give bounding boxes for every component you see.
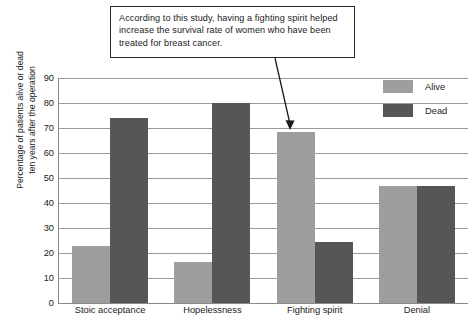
legend-item-dead: Dead <box>383 104 447 117</box>
y-axis-tick-label: 90 <box>44 73 54 83</box>
x-axis-category-label: Stoic acceptance <box>75 305 146 315</box>
bar-dead-2 <box>315 242 353 303</box>
bar-alive-3 <box>379 186 417 304</box>
x-axis-category-label: Hopelessness <box>183 305 241 315</box>
y-axis-tick-label: 80 <box>44 98 54 108</box>
y-axis-title: Percentage of patients alive or dead ten… <box>15 13 45 228</box>
bar-dead-1 <box>212 103 250 303</box>
legend-swatch-dead <box>383 104 413 117</box>
bar-dead-0 <box>110 118 148 303</box>
chart-legend: Alive Dead <box>383 80 447 128</box>
y-axis-tick-label: 20 <box>44 248 54 258</box>
y-axis-tick-label: 60 <box>44 148 54 158</box>
y-axis-tick-label: 0 <box>49 298 54 308</box>
callout-arrow-icon <box>250 52 310 134</box>
legend-label-alive: Alive <box>425 82 445 92</box>
y-axis-tick-label: 30 <box>44 223 54 233</box>
bar-dead-3 <box>417 186 455 304</box>
y-axis-tick-label: 70 <box>44 123 54 133</box>
y-axis-tick-label: 10 <box>44 273 54 283</box>
bar-alive-0 <box>72 246 110 304</box>
callout-annotation: According to this study, having a fighti… <box>110 6 355 58</box>
legend-label-dead: Dead <box>425 106 447 116</box>
bar-alive-1 <box>174 262 212 303</box>
y-axis-tick-label: 40 <box>44 198 54 208</box>
y-axis-tick-label: 50 <box>44 173 54 183</box>
x-axis-category-label: Fighting spirit <box>287 305 342 315</box>
legend-item-alive: Alive <box>383 80 447 93</box>
legend-swatch-alive <box>383 80 413 93</box>
callout-text: According to this study, having a fighti… <box>119 12 347 49</box>
x-axis-category-label: Denial <box>404 305 430 315</box>
bar-alive-2 <box>277 132 315 303</box>
